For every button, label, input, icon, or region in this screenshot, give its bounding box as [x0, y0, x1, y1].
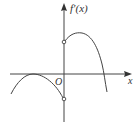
- x-axis-label: x: [127, 75, 133, 86]
- origin-label: O: [55, 76, 62, 87]
- derivative-graph: f′(x) x O: [0, 0, 139, 130]
- y-axis-arrow-icon: [61, 3, 67, 11]
- y-axis-label: f′(x): [70, 2, 88, 15]
- right-branch-curve: [65, 33, 107, 92]
- open-circle-upper: [62, 40, 66, 44]
- open-circle-lower: [62, 97, 66, 101]
